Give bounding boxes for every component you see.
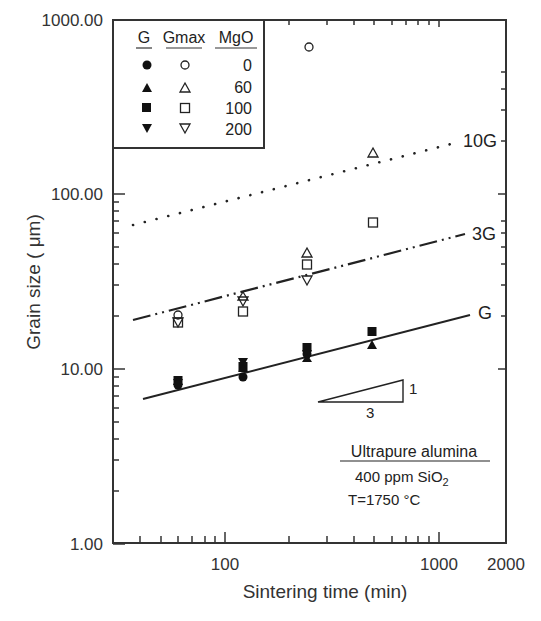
y-tick-1: 1.00 (70, 535, 103, 554)
legend-header-gmax: Gmax (163, 29, 206, 46)
label-3g: 3G (472, 224, 496, 244)
label-g: G (478, 303, 492, 323)
open-triangle-down-icon (302, 276, 312, 285)
legend: G Gmax MgO 0 60 100 200 (113, 20, 264, 148)
legend-header-mgo: MgO (219, 29, 254, 46)
open-triangle-up-icon (302, 248, 312, 257)
label-10g: 10G (463, 131, 497, 151)
legend-mgo-100: 100 (225, 100, 252, 117)
y-tick-1000: 1000.00 (42, 11, 103, 30)
x-axis-title: Sintering time (min) (243, 581, 408, 602)
x-tick-1000: 1000 (420, 555, 458, 574)
legend-filled-square-icon (142, 103, 151, 112)
annotation-material: Ultrapure alumina (351, 443, 477, 460)
y-axis-title: Grain size ( μm) (23, 214, 44, 350)
slope-indicator: 1 3 (318, 380, 417, 421)
y-tick-10: 10.00 (60, 360, 103, 379)
legend-mgo-60: 60 (234, 79, 252, 96)
slope-run-label: 3 (366, 404, 374, 421)
g-markers (173, 327, 377, 390)
y-tick-100: 100.00 (51, 185, 103, 204)
legend-mgo-200: 200 (225, 121, 252, 138)
open-triangle-up-icon (368, 148, 378, 157)
open-square-icon (369, 218, 378, 227)
filled-circle-icon (174, 381, 183, 390)
slope-rise-label: 1 (409, 380, 417, 397)
fit-line-10g (133, 143, 455, 225)
legend-filled-circle-icon (143, 61, 152, 70)
legend-header-g: G (138, 29, 150, 46)
open-square-icon (303, 260, 312, 269)
annotation-dopant: 400 ppm SiO2 (355, 468, 449, 488)
filled-circle-icon (239, 373, 248, 382)
fit-line-3g (133, 234, 465, 320)
x-tick-100: 100 (211, 555, 239, 574)
legend-mgo-0: 0 (243, 57, 252, 74)
annotation-temperature: T=1750 °C (348, 491, 420, 508)
x-tick-2000: 2000 (487, 555, 525, 574)
filled-square-icon (368, 327, 377, 336)
chart: 1000.00 100.00 10.00 1.00 100 1000 2000 … (0, 0, 541, 621)
open-square-icon (239, 307, 248, 316)
open-circle-icon (305, 43, 313, 51)
annotation: Ultrapure alumina 400 ppm SiO2 T=1750 °C (340, 443, 490, 508)
